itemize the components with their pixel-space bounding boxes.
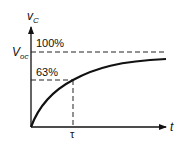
charging-curve-diagram: vC Voc 100% 63% τ t	[0, 0, 182, 151]
63-percent-label: 63%	[36, 66, 58, 78]
x-axis-label: t	[170, 120, 174, 134]
voc-label: Voc	[12, 45, 28, 61]
y-axis-label: vC	[27, 9, 39, 25]
100-percent-label: 100%	[36, 37, 64, 49]
tau-label: τ	[70, 128, 75, 140]
